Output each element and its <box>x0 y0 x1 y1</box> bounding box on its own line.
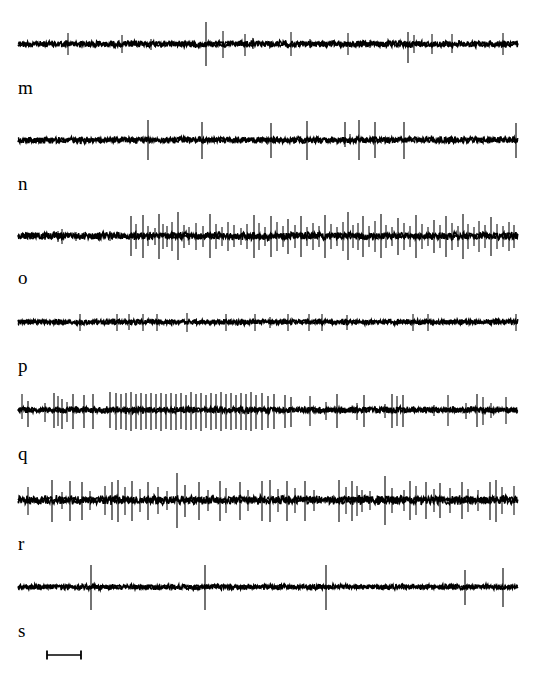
spike-train-figure: mnopqrs <box>0 0 538 683</box>
trace-q <box>18 392 518 431</box>
trace-label-o: o <box>18 268 28 287</box>
trace-label-s: s <box>18 621 26 640</box>
trace-r <box>18 473 518 528</box>
trace-s <box>18 565 518 610</box>
trace-o <box>18 212 518 260</box>
trace-label-r: r <box>18 534 25 553</box>
scale-bar <box>47 651 81 660</box>
traces-canvas <box>0 0 538 683</box>
trace-m <box>18 22 518 66</box>
trace-label-p: p <box>18 356 28 375</box>
trace-label-q: q <box>18 444 28 463</box>
trace-p <box>18 313 518 332</box>
trace-label-n: n <box>18 174 28 193</box>
trace-n <box>18 120 518 160</box>
trace-label-m: m <box>18 78 33 97</box>
